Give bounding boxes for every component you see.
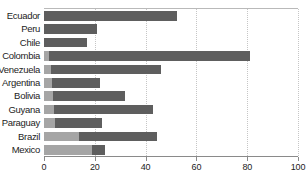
bar-segment-light-segment[interactable] <box>44 118 55 128</box>
stacked-bar[interactable] <box>44 118 102 128</box>
stacked-bar[interactable] <box>44 105 153 115</box>
stacked-bar[interactable] <box>44 78 100 88</box>
tick-mark <box>146 157 147 161</box>
bar-segment-light-segment[interactable] <box>44 145 92 155</box>
x-tick-label: 40 <box>141 162 151 172</box>
stacked-bar[interactable] <box>44 145 105 155</box>
x-axis-line <box>44 156 298 157</box>
bar-row: Peru <box>0 22 307 35</box>
stacked-bar[interactable] <box>44 51 250 61</box>
bar-segment-dark-segment[interactable] <box>53 91 125 101</box>
category-label: Colombia <box>0 49 40 62</box>
bar-segment-dark-segment[interactable] <box>92 145 105 155</box>
stacked-bar[interactable] <box>44 38 87 48</box>
x-tick-label: 80 <box>242 162 252 172</box>
category-label: Ecuador <box>0 9 40 22</box>
bar-row: Venezuela <box>0 63 307 76</box>
stacked-bar[interactable] <box>44 132 157 142</box>
category-label: Venezuela <box>0 63 40 76</box>
bar-segment-dark-segment[interactable] <box>51 65 161 75</box>
bar-segment-dark-segment[interactable] <box>49 51 250 61</box>
bar-segment-dark-segment[interactable] <box>44 11 177 21</box>
category-label: Mexico <box>0 143 40 156</box>
x-tick-label: 20 <box>90 162 100 172</box>
tick-mark <box>44 157 45 161</box>
bar-row: Ecuador <box>0 9 307 22</box>
bar-row: Brazil <box>0 130 307 143</box>
bar-segment-light-segment[interactable] <box>44 105 54 115</box>
category-label: Guyana <box>0 103 40 116</box>
tick-mark <box>247 157 248 161</box>
bar-row: Mexico <box>0 143 307 156</box>
tick-mark <box>298 157 299 161</box>
category-label: Paraguay <box>0 116 40 129</box>
x-tick-label: 0 <box>42 162 47 172</box>
x-tick-label: 60 <box>192 162 202 172</box>
bar-segment-light-segment[interactable] <box>44 91 53 101</box>
bar-row: Argentina <box>0 76 307 89</box>
stacked-bar[interactable] <box>44 11 177 21</box>
bar-segment-dark-segment[interactable] <box>55 118 102 128</box>
bar-chart: EcuadorPeruChileColombiaVenezuelaArgenti… <box>0 0 307 178</box>
bar-segment-light-segment[interactable] <box>44 65 51 75</box>
bar-segment-light-segment[interactable] <box>44 78 52 88</box>
stacked-bar[interactable] <box>44 65 161 75</box>
bar-row: Guyana <box>0 103 307 116</box>
category-label: Argentina <box>0 76 40 89</box>
bar-row: Bolivia <box>0 89 307 102</box>
bar-segment-dark-segment[interactable] <box>52 78 100 88</box>
category-label: Peru <box>0 22 40 35</box>
category-label: Bolivia <box>0 89 40 102</box>
tick-mark <box>95 157 96 161</box>
stacked-bar[interactable] <box>44 91 125 101</box>
x-tick-label: 100 <box>291 162 305 172</box>
category-label: Chile <box>0 36 40 49</box>
bar-row: Paraguay <box>0 116 307 129</box>
bar-segment-dark-segment[interactable] <box>54 105 154 115</box>
bar-segment-dark-segment[interactable] <box>44 24 97 34</box>
stacked-bar[interactable] <box>44 24 97 34</box>
tick-mark <box>196 157 197 161</box>
bar-row: Chile <box>0 36 307 49</box>
category-label: Brazil <box>0 130 40 143</box>
bar-segment-dark-segment[interactable] <box>44 38 87 48</box>
bar-row: Colombia <box>0 49 307 62</box>
bar-segment-dark-segment[interactable] <box>79 132 157 142</box>
bar-segment-light-segment[interactable] <box>44 132 79 142</box>
